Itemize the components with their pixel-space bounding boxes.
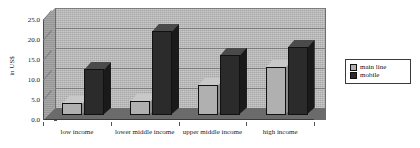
gridline xyxy=(55,8,326,9)
y-tick-label: 0.0 xyxy=(16,117,40,124)
bar-mobile xyxy=(288,47,308,115)
legend-item[interactable]: main line xyxy=(350,64,407,71)
x-tick-mark xyxy=(43,122,44,126)
bar-side-face xyxy=(103,62,111,115)
y-tick-label: 5.0 xyxy=(16,97,40,104)
gridline xyxy=(55,48,326,49)
bar-chart: in US$ 25.020.015.010.05.00.0 low income… xyxy=(0,0,420,148)
y-tick-label: 25.0 xyxy=(16,17,40,24)
y-axis-line xyxy=(43,19,44,120)
legend-swatch-icon xyxy=(350,72,357,79)
bar-side-face xyxy=(171,24,179,115)
x-tick-mark xyxy=(111,122,112,126)
y-axis-tick-labels: 25.020.015.010.05.00.0 xyxy=(14,0,40,148)
bar-front-face xyxy=(266,67,286,115)
legend-label: main line xyxy=(360,64,386,71)
x-category-label: low income xyxy=(60,128,93,136)
bar-mobile xyxy=(220,55,240,115)
x-category-label: high income xyxy=(263,128,298,136)
bar-front-face xyxy=(220,55,240,115)
bar-mobile xyxy=(84,69,104,115)
legend-item[interactable]: mobile xyxy=(350,72,407,79)
bar-front-face xyxy=(288,47,308,115)
x-category-label: lower middle income xyxy=(115,128,174,136)
y-axis-back-line xyxy=(55,8,56,108)
y-tick-label: 20.0 xyxy=(16,37,40,44)
bar-main-line xyxy=(266,67,286,115)
gridline xyxy=(55,28,326,29)
bar-main-line xyxy=(198,85,218,115)
bar-front-face xyxy=(62,103,82,115)
x-tick-mark xyxy=(314,122,315,126)
bar-front-face xyxy=(130,101,150,115)
plot-left-wall xyxy=(43,8,55,120)
x-tick-mark xyxy=(179,122,180,126)
x-tick-mark xyxy=(246,122,247,126)
bar-main-line xyxy=(130,101,150,115)
bar-side-face xyxy=(239,48,247,115)
legend-swatch-icon xyxy=(350,64,357,71)
plot-floor-front-edge xyxy=(43,119,314,120)
legend-label: mobile xyxy=(360,72,379,79)
chart-legend: main linemobile xyxy=(345,59,411,84)
y-tick-label: 10.0 xyxy=(16,77,40,84)
y-tick-label: 15.0 xyxy=(16,57,40,64)
bar-front-face xyxy=(152,31,172,115)
bar-front-face xyxy=(198,85,218,115)
bar-mobile xyxy=(152,31,172,115)
bar-main-line xyxy=(62,103,82,115)
bar-side-face xyxy=(307,40,315,115)
plot-area xyxy=(43,8,326,122)
x-category-label: upper middle income xyxy=(183,128,242,136)
bar-front-face xyxy=(84,69,104,115)
